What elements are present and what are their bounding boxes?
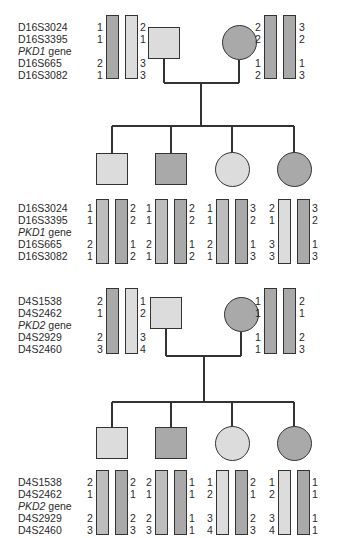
marker-label: D4S2462	[18, 307, 62, 319]
father-chromosome-bar	[125, 15, 138, 79]
child-allele: 3	[268, 238, 276, 250]
child-allele: 3	[145, 524, 153, 536]
father-allele: 1	[139, 33, 147, 45]
child-chromosome-bar	[96, 199, 109, 264]
child-allele: 1	[129, 238, 137, 250]
child-allele: 2	[86, 238, 94, 250]
mother-allele: 1	[254, 331, 262, 343]
mother-chromosome-bar	[264, 15, 277, 79]
child-allele: 1	[311, 476, 319, 488]
mother-circle-symbol	[222, 25, 257, 60]
father-allele: 1	[96, 21, 104, 33]
child-allele: 1	[311, 512, 319, 524]
child-square-symbol	[155, 427, 187, 459]
gene-label: PKD1 gene	[18, 45, 72, 57]
gene-suffix: gene	[45, 45, 71, 57]
child-allele: 2	[145, 512, 153, 524]
child-allele: 2	[249, 214, 257, 226]
gene-name: PKD2	[18, 500, 45, 512]
child-circle-symbol	[277, 426, 312, 461]
mother-allele: 2	[298, 295, 306, 307]
marker-label: D16S3082	[18, 69, 68, 81]
child-allele: 2	[129, 250, 137, 262]
child-descent-line	[293, 402, 294, 427]
marker-label: D4S1538	[18, 295, 62, 307]
father-chromosome-bar	[106, 288, 119, 354]
child-allele: 1	[129, 488, 137, 500]
child-allele: 1	[311, 524, 319, 536]
father-allele: 2	[96, 295, 104, 307]
marker-label: D4S2460	[18, 343, 62, 355]
father-allele: 3	[139, 69, 147, 81]
mother-allele: 1	[254, 307, 262, 319]
child-allele: 2	[129, 512, 137, 524]
mother-chromosome-bar	[264, 288, 277, 354]
father-allele: 3	[139, 57, 147, 69]
child-allele: 2	[268, 488, 276, 500]
child-chromosome-bar	[278, 470, 291, 535]
mother-allele: 1	[298, 307, 306, 319]
child-allele: 2	[249, 512, 257, 524]
child-chromosome-bar	[115, 199, 128, 264]
child-allele: 2	[86, 476, 94, 488]
child-descent-line	[231, 402, 232, 427]
child-chromosome-bar	[297, 199, 310, 264]
father-allele: 2	[96, 57, 104, 69]
child-allele: 1	[206, 214, 214, 226]
child-allele: 1	[188, 476, 196, 488]
father-square-symbol	[150, 297, 182, 329]
child-allele: 2	[188, 250, 196, 262]
child-allele: 1	[206, 476, 214, 488]
child-square-symbol	[96, 427, 128, 459]
child-allele: 1	[145, 250, 153, 262]
mother-chromosome-bar	[283, 15, 296, 79]
father-allele: 3	[96, 343, 104, 355]
child-allele: 1	[188, 488, 196, 500]
child-allele: 1	[86, 250, 94, 262]
child-chromosome-bar	[216, 199, 229, 264]
father-allele: 1	[139, 295, 147, 307]
marker-label: D16S665	[18, 238, 62, 250]
mother-allele: 3	[298, 21, 306, 33]
child-allele: 1	[311, 238, 319, 250]
child-allele: 2	[129, 202, 137, 214]
child-allele: 3	[311, 202, 319, 214]
child-allele: 1	[249, 238, 257, 250]
mother-allele: 1	[254, 57, 262, 69]
child-allele: 1	[145, 202, 153, 214]
child-allele: 2	[145, 238, 153, 250]
father-allele: 3	[139, 331, 147, 343]
mother-allele: 2	[298, 33, 306, 45]
marker-label: D4S2462	[18, 488, 62, 500]
child-allele: 3	[268, 250, 276, 262]
child-allele: 1	[188, 238, 196, 250]
child-allele: 2	[268, 202, 276, 214]
gene-name: PKD1	[18, 45, 45, 57]
mother-allele: 3	[298, 343, 306, 355]
father-allele: 1	[96, 69, 104, 81]
marker-label: D4S1538	[18, 476, 62, 488]
marker-label: D16S3024	[18, 21, 68, 33]
child-circle-symbol	[215, 426, 250, 461]
child-descent-line	[170, 126, 171, 153]
child-allele: 3	[206, 512, 214, 524]
marker-label: D4S2929	[18, 512, 62, 524]
mother-allele: 2	[254, 33, 262, 45]
child-chromosome-bar	[235, 199, 248, 264]
offspring-line	[203, 356, 204, 402]
marker-label: D4S2929	[18, 331, 62, 343]
child-allele: 2	[145, 476, 153, 488]
child-allele: 1	[268, 476, 276, 488]
child-chromosome-bar	[155, 470, 168, 535]
marker-label: D16S3082	[18, 250, 68, 262]
child-descent-line	[231, 126, 232, 153]
father-chromosome-bar	[125, 288, 138, 354]
father-chromosome-bar	[106, 15, 119, 79]
mother-allele: 2	[254, 21, 262, 33]
child-descent-line	[293, 126, 294, 153]
marker-label: D16S665	[18, 57, 62, 69]
child-allele: 1	[145, 214, 153, 226]
child-allele: 2	[188, 202, 196, 214]
child-chromosome-bar	[216, 470, 229, 535]
sibship-line	[112, 125, 294, 126]
